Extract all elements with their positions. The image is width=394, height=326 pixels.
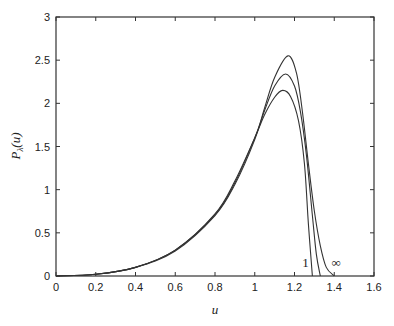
x-tick-label: 1 — [252, 281, 258, 293]
x-tick-label: 1.4 — [327, 281, 342, 293]
curve — [56, 74, 320, 276]
y-tick-label: 1 — [44, 184, 50, 196]
x-tick-label: 0 — [53, 281, 59, 293]
curve — [56, 56, 334, 276]
y-tick-label: 0.5 — [35, 227, 50, 239]
y-tick-label: 3 — [44, 11, 50, 23]
y-axis-label: Pλ(u) — [8, 132, 25, 160]
x-tick-label: 0.2 — [88, 281, 103, 293]
curve-label: ∞ — [332, 255, 341, 270]
curve-label: 1 — [302, 255, 309, 270]
curve-annotations: 1∞ — [302, 255, 341, 270]
y-axis-ticks: 00.511.522.53 — [35, 11, 374, 282]
curve — [56, 90, 312, 276]
x-tick-label: 0.4 — [128, 281, 143, 293]
x-axis-label: u — [212, 302, 219, 317]
y-tick-label: 2.5 — [35, 54, 50, 66]
x-tick-label: 0.8 — [207, 281, 222, 293]
y-tick-label: 1.5 — [35, 141, 50, 153]
x-axis-ticks: 00.20.40.60.811.21.41.6 — [53, 17, 382, 293]
plot-frame — [56, 17, 374, 276]
y-tick-label: 2 — [44, 97, 50, 109]
x-tick-label: 1.6 — [366, 281, 381, 293]
x-tick-label: 0.6 — [168, 281, 183, 293]
chart: 00.20.40.60.811.21.41.6 00.511.522.53 1∞… — [0, 0, 394, 326]
data-curves — [56, 56, 334, 276]
x-tick-label: 1.2 — [287, 281, 302, 293]
y-tick-label: 0 — [44, 270, 50, 282]
